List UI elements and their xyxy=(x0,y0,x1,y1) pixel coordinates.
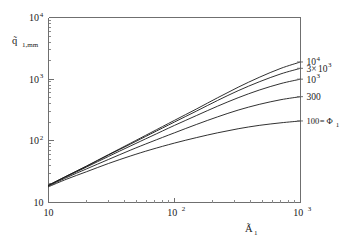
series-label-prefix: 3× xyxy=(307,64,317,74)
curve-phi1-300 xyxy=(49,97,301,186)
y-tick-mantissa: 10 xyxy=(29,135,39,146)
y-tick-mantissa: 10 xyxy=(29,74,39,85)
axis-ticks xyxy=(49,18,301,203)
y-tick-exponent: 3 xyxy=(40,72,44,80)
y-axis-label-base: q̃ xyxy=(12,35,18,46)
series-curves xyxy=(49,62,301,187)
x-tick-label-100: 102 xyxy=(167,205,186,218)
series-label-mantissa: 300 xyxy=(307,92,322,102)
x-tick-exponent: 2 xyxy=(182,205,186,213)
series-label-phi1-100: 100 = Φ1 xyxy=(297,116,340,128)
curve-phi1-3000 xyxy=(49,68,301,185)
series-label-phi1-3000: 3×103 xyxy=(297,61,332,74)
x-tick-mantissa: 10 xyxy=(167,207,177,218)
series-label-suffix-subscript: 1 xyxy=(336,121,340,129)
x-tick-label-1000: 103 xyxy=(293,205,312,218)
y-tick-label-1000: 103 xyxy=(29,72,44,85)
x-axis-label: Ã 1 xyxy=(245,223,258,237)
y-axis-label-subscript: 1,mm xyxy=(22,41,39,49)
x-axis-label-base: Ã xyxy=(245,223,253,234)
y-axis-label: q̃ 1,mm xyxy=(12,35,39,49)
log-log-line-chart: 10102103 10102103104 1043×103103300100 =… xyxy=(0,0,340,252)
series-label-mantissa: 10 xyxy=(307,75,317,85)
series-label-suffix: = Φ xyxy=(320,116,333,126)
y-tick-exponent: 2 xyxy=(40,134,44,142)
y-tick-mantissa: 10 xyxy=(29,12,39,23)
y-tick-exponent: 4 xyxy=(40,11,44,19)
axes xyxy=(49,18,301,203)
y-tick-mantissa: 10 xyxy=(34,197,44,208)
x-tick-mantissa: 10 xyxy=(44,207,54,218)
series-label-exponent: 4 xyxy=(317,55,321,63)
y-tick-label-10: 10 xyxy=(34,197,44,208)
series-label-exponent: 3 xyxy=(317,72,321,80)
x-tick-exponent: 3 xyxy=(308,205,312,213)
x-tick-mantissa: 10 xyxy=(293,207,303,218)
series-labels: 1043×103103300100 = Φ1 xyxy=(297,55,340,129)
x-axis-label-subscript: 1 xyxy=(254,229,258,237)
y-tick-label-10000: 104 xyxy=(29,11,44,24)
series-label-exponent: 3 xyxy=(328,61,332,69)
curve-phi1-100 xyxy=(49,121,301,187)
x-axis-tick-labels: 10102103 xyxy=(44,205,312,218)
figure-container: 10102103 10102103104 1043×103103300100 =… xyxy=(0,0,340,252)
series-label-mantissa: 100 xyxy=(307,116,320,126)
x-tick-label-10: 10 xyxy=(44,207,54,218)
y-tick-label-100: 102 xyxy=(29,134,44,147)
